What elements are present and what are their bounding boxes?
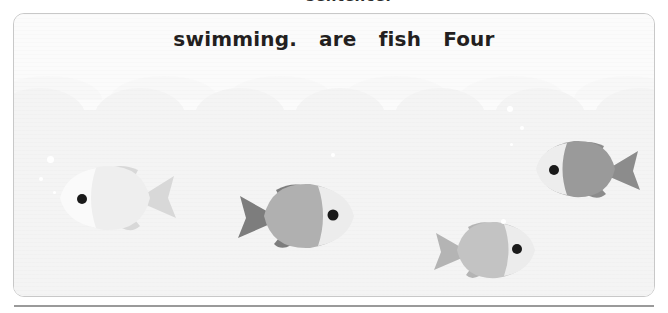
- bubble-2: [39, 177, 43, 181]
- scrambled-word-2[interactable]: are: [319, 27, 357, 51]
- fish-1: [56, 156, 178, 240]
- bubble-4: [507, 106, 513, 112]
- fish-4: [530, 133, 642, 205]
- fish-3-eye: [512, 244, 522, 254]
- fish-3: [432, 213, 542, 285]
- page-top-fragment: sentence.: [0, 0, 668, 12]
- fish-4-eye: [549, 165, 559, 175]
- bubble-1: [47, 156, 54, 163]
- exercise-card: swimming.arefishFour: [13, 13, 655, 297]
- scrambled-word-4[interactable]: Four: [443, 27, 495, 51]
- bubble-7: [501, 219, 506, 224]
- scrambled-word-3[interactable]: fish: [379, 27, 422, 51]
- bubble-5: [520, 126, 524, 130]
- top-fragment-text: sentence.: [306, 0, 391, 5]
- bubble-3: [53, 191, 56, 194]
- underwater-scene: [14, 14, 654, 296]
- fish-2-eye: [328, 210, 339, 221]
- scrambled-sentence: swimming.arefishFour: [14, 27, 654, 51]
- bubble-8: [331, 153, 335, 157]
- fish-1-eye: [77, 194, 87, 204]
- section-separator: [14, 305, 654, 307]
- fish-2: [236, 174, 362, 256]
- scrambled-word-1[interactable]: swimming.: [173, 27, 297, 51]
- bubble-6: [510, 143, 513, 146]
